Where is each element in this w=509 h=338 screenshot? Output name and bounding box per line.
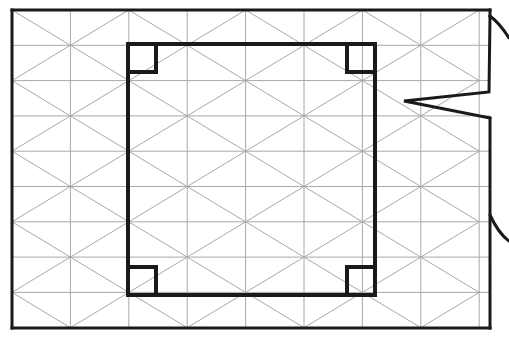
technical-drawing-svg <box>0 0 509 338</box>
drawing-canvas <box>0 0 509 338</box>
